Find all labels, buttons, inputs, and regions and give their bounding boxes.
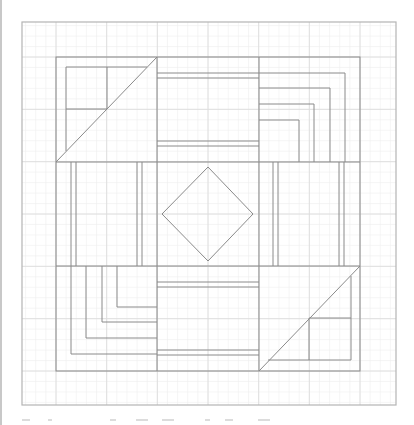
block-top-right xyxy=(259,73,345,162)
log-cabin-strip xyxy=(71,266,157,354)
clipped-caption-text xyxy=(22,419,322,425)
quilt-pattern-diagram xyxy=(0,0,414,425)
caption-glyph-fragment xyxy=(225,419,233,421)
caption-glyph-fragment xyxy=(258,419,270,421)
caption-glyph-fragment xyxy=(110,419,116,421)
caption-glyph-fragment xyxy=(48,419,52,421)
caption-glyph-fragment xyxy=(22,419,30,421)
log-cabin-strip xyxy=(259,73,345,162)
block-bottom-left xyxy=(71,266,157,354)
log-cabin-strip xyxy=(259,104,314,162)
grid-minor-lines xyxy=(22,22,396,405)
caption-glyph-fragment xyxy=(205,419,210,421)
log-cabin-strip xyxy=(102,266,157,322)
caption-glyph-fragment xyxy=(162,419,174,421)
caption-glyph-fragment xyxy=(136,419,148,421)
